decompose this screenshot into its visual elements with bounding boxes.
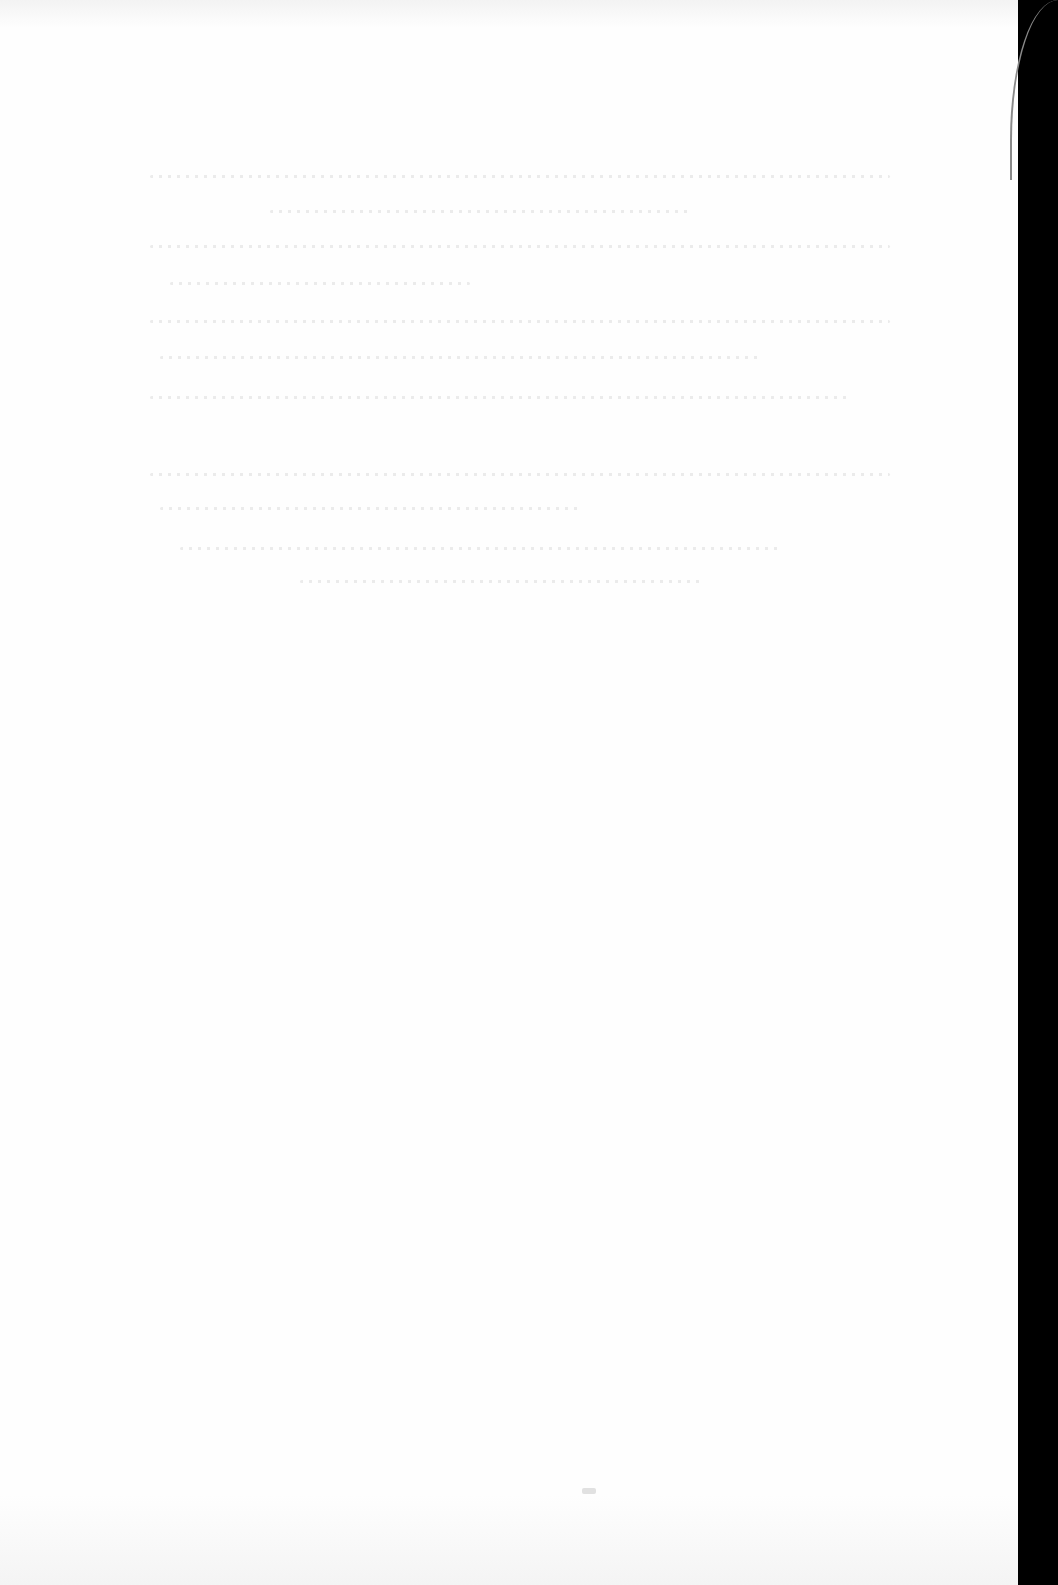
bleed-through-line — [160, 356, 760, 359]
faint-page-number-mark — [582, 1488, 596, 1494]
bleed-through-line — [270, 210, 690, 213]
bleed-through-line — [150, 473, 890, 476]
bleed-through-line — [150, 396, 850, 399]
blank-page — [0, 0, 1018, 1585]
scan-dark-margin — [1018, 0, 1058, 1585]
bleed-through-line — [170, 282, 470, 285]
scanned-document — [0, 0, 1058, 1585]
bleed-through-line — [300, 580, 700, 583]
bleed-through-line — [150, 245, 890, 248]
bleed-through-line — [160, 507, 580, 510]
bleed-through-line — [150, 175, 890, 178]
bleed-through-line — [150, 320, 890, 323]
bleed-through-line — [180, 547, 780, 550]
